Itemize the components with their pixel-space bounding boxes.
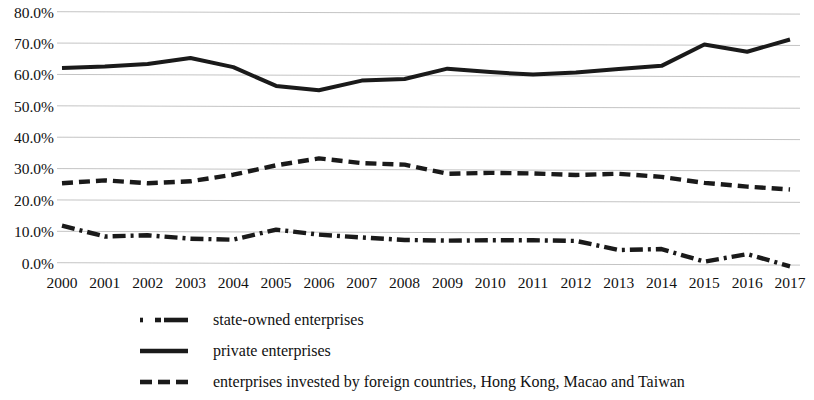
gridline xyxy=(57,12,800,14)
series-line-1 xyxy=(62,39,790,90)
y-axis-tick-label: 60.0% xyxy=(2,67,54,82)
x-axis-tick-label: 2008 xyxy=(382,274,428,292)
series-line-2 xyxy=(62,158,790,189)
y-axis-tick-label: 10.0% xyxy=(2,224,54,239)
x-axis-tick-label: 2001 xyxy=(82,274,128,292)
x-axis-tick-label: 2010 xyxy=(467,274,513,292)
x-axis-tick-label: 2002 xyxy=(125,274,171,292)
x-axis-tick-label: 2014 xyxy=(639,274,685,292)
solid-line-icon xyxy=(138,345,204,357)
gridlines-group xyxy=(57,12,800,265)
y-axis-labels: 80.0%70.0%60.0%50.0%40.0%30.0%20.0%10.0%… xyxy=(0,0,54,275)
y-axis-tick-label: 70.0% xyxy=(2,36,54,51)
x-axis-tick-label: 2004 xyxy=(210,274,256,292)
legend-label: state-owned enterprises xyxy=(213,311,364,329)
x-axis-tick-label: 2017 xyxy=(767,274,813,292)
x-axis-tick-label: 2003 xyxy=(167,274,213,292)
gridline xyxy=(57,43,800,45)
legend-item-state-owned-enterprises[interactable]: state-owned enterprises xyxy=(138,309,364,331)
dashed-line-icon xyxy=(138,376,204,388)
x-axis-tick-label: 2005 xyxy=(253,274,299,292)
x-axis-labels: 2000200120022003200420052006200720082009… xyxy=(57,274,802,300)
y-axis-tick-label: 40.0% xyxy=(2,130,54,145)
chart-plot-svg xyxy=(0,0,814,300)
dash-dot-line-icon xyxy=(138,314,204,326)
y-axis-tick-label: 50.0% xyxy=(2,99,54,114)
gridline xyxy=(57,263,800,265)
x-axis-tick-label: 2012 xyxy=(553,274,599,292)
gridline xyxy=(57,137,800,139)
x-axis-tick-label: 2015 xyxy=(681,274,727,292)
legend-item-foreign-invested-enterprises[interactable]: enterprises invested by foreign countrie… xyxy=(138,371,685,393)
x-axis-tick-label: 2006 xyxy=(296,274,342,292)
chart-container: 80.0%70.0%60.0%50.0%40.0%30.0%20.0%10.0%… xyxy=(0,0,814,400)
gridline xyxy=(57,169,800,171)
y-axis-tick-label: 30.0% xyxy=(2,161,54,176)
x-axis-tick-label: 2007 xyxy=(339,274,385,292)
gridline xyxy=(57,106,800,108)
plot-area xyxy=(0,0,814,300)
chart-legend: state-owned enterprises private enterpri… xyxy=(0,303,814,400)
x-axis-tick-label: 2011 xyxy=(510,274,556,292)
legend-label: private enterprises xyxy=(213,342,331,360)
legend-item-private-enterprises[interactable]: private enterprises xyxy=(138,340,331,362)
y-axis-tick-label: 0.0% xyxy=(2,256,54,271)
x-axis-tick-label: 2016 xyxy=(724,274,770,292)
y-axis-tick-label: 20.0% xyxy=(2,193,54,208)
x-axis-tick-label: 2009 xyxy=(424,274,470,292)
gridline xyxy=(57,231,800,233)
x-axis-tick-label: 2013 xyxy=(596,274,642,292)
legend-label: enterprises invested by foreign countrie… xyxy=(213,373,685,391)
gridline xyxy=(57,200,800,202)
y-axis-tick-label: 80.0% xyxy=(2,5,54,20)
x-axis-tick-label: 2000 xyxy=(39,274,85,292)
